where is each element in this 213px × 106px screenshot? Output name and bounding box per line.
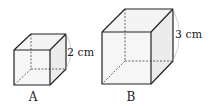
cube-b-label: B	[127, 90, 136, 104]
cubes-diagram: 2 cm A 3 cm B	[0, 0, 213, 106]
cube-a-edge-label: 2 cm	[67, 46, 95, 59]
cube-b: 3 cm B	[102, 9, 203, 104]
cube-a: 2 cm A	[14, 34, 95, 104]
cube-b-edge-label: 3 cm	[175, 28, 203, 41]
cube-a-label: A	[28, 90, 38, 104]
